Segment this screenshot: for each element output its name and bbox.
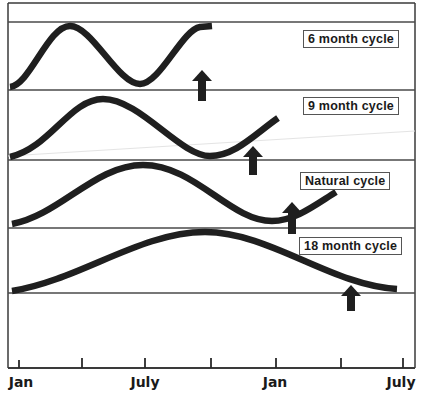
arrow-up-icon <box>341 285 361 311</box>
curve-natural <box>12 165 336 224</box>
x-label-july-2: July <box>386 374 415 390</box>
label-9-month: 9 month cycle <box>303 97 399 115</box>
x-ticks <box>19 358 403 368</box>
arrow-up-icon <box>192 70 212 101</box>
curve-6-month <box>10 26 212 87</box>
x-label-jan-1: Jan <box>9 374 34 390</box>
curve-9-month <box>10 99 278 157</box>
label-18-month: 18 month cycle <box>299 237 402 255</box>
x-label-july-1: July <box>130 374 159 390</box>
label-6-month: 6 month cycle <box>303 30 399 48</box>
x-label-jan-2: Jan <box>263 374 288 390</box>
scan-artifact <box>8 131 415 156</box>
label-natural: Natural cycle <box>300 172 390 190</box>
cycle-chart <box>0 0 421 396</box>
